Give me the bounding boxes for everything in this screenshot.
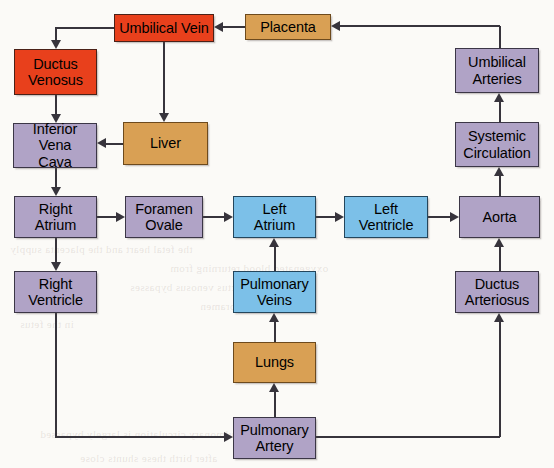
node-label-line: Ductus	[31, 56, 80, 72]
node-systemic-circulation[interactable]: SystemicCirculation	[455, 122, 539, 167]
node-label-line: Right	[37, 276, 74, 292]
edge-umbilical-arteries-to-placenta	[339, 25, 500, 27]
edge-left-ventricle-to-aorta	[428, 216, 451, 218]
arrowhead-into-pulmonary-veins	[269, 313, 279, 322]
node-label-line: Aorta	[480, 209, 518, 225]
arrowhead-into-left-atrium	[224, 212, 233, 222]
node-label-line: Ovale	[143, 217, 184, 233]
node-label-line: Inferior Vena	[14, 121, 96, 153]
node-pulmonary-veins[interactable]: PulmonaryVeins	[233, 271, 316, 313]
node-label-line: Atrium	[252, 217, 297, 233]
node-label-line: Venosus	[26, 72, 85, 88]
edge-pulmonary-veins-to-left-atrium	[274, 246, 276, 271]
node-umbilical-vein[interactable]: Umbilical Vein	[114, 14, 214, 42]
node-label-line: Left	[372, 201, 400, 217]
node-label-line: Ventricle	[357, 217, 416, 233]
edge-umbilical-vein-left	[55, 27, 114, 29]
arrowhead-into-left-atrium-bottom	[269, 238, 279, 247]
arrowhead-into-aorta-bottom	[494, 238, 504, 247]
node-left-ventricle[interactable]: LeftVentricle	[344, 196, 428, 238]
edge-placenta-to-umbilical-vein	[222, 26, 245, 28]
arrowhead-into-ductus-venosus	[51, 40, 61, 49]
arrowhead-into-placenta	[331, 21, 340, 31]
fetal-circulation-diagram: the fetal heart and the placenta supplyo…	[0, 0, 554, 468]
edge-pulmonary-artery-to-lungs	[274, 391, 276, 417]
arrowhead-into-umbilical-arteries	[494, 93, 504, 102]
node-lungs[interactable]: Lungs	[233, 342, 316, 383]
node-placenta[interactable]: Placenta	[245, 14, 331, 40]
edge-ductus-venosus-to-ivc	[55, 95, 57, 115]
edge-ivc-to-right-atrium	[55, 168, 57, 188]
node-label-line: Pulmonary	[238, 422, 310, 438]
node-label-line: Veins	[255, 292, 294, 308]
arrowhead-into-systemic-circulation	[494, 167, 504, 176]
arrowhead-into-ductus-arteriosus	[494, 313, 504, 322]
edge-umbilical-vein-to-liver	[163, 42, 165, 114]
edge-lungs-to-pulmonary-veins	[274, 321, 276, 342]
edge-aorta-to-systemic	[499, 175, 501, 196]
edge-right-atrium-to-foramen-ovale	[97, 216, 117, 218]
arrowhead-into-pulmonary-artery	[224, 432, 233, 442]
node-label-line: Arteriosus	[463, 292, 531, 308]
node-label-line: Left	[261, 201, 289, 217]
node-label-line: Arteries	[470, 71, 523, 87]
arrowhead-into-right-ventricle	[51, 262, 61, 271]
arrowhead-into-left-ventricle	[335, 212, 344, 222]
edge-right-atrium-to-right-ventricle	[55, 238, 57, 263]
edge-foramen-ovale-to-left-atrium	[203, 216, 225, 218]
node-ductus-arteriosus[interactable]: DuctusArteriosus	[455, 271, 539, 313]
node-ductus-venosus[interactable]: DuctusVenosus	[14, 49, 97, 95]
node-inferior-vena-cava[interactable]: Inferior VenaCava	[13, 123, 97, 168]
node-foramen-ovale[interactable]: ForamenOvale	[125, 196, 203, 238]
edge-pulmonary-artery-right	[316, 436, 500, 438]
node-liver[interactable]: Liver	[123, 122, 208, 165]
node-label-line: Ductus	[473, 276, 522, 292]
node-label-line: Foramen	[133, 201, 194, 217]
bleedthrough-text: after birth these shunts close	[80, 452, 217, 464]
edge-right-ventricle-to-pulmonary-artery	[55, 436, 225, 438]
node-umbilical-arteries[interactable]: UmbilicalArteries	[455, 48, 539, 93]
node-label-line: Liver	[148, 135, 183, 151]
arrowhead-into-ivc-side	[97, 138, 106, 148]
arrowhead-into-liver	[159, 113, 169, 122]
edge-liver-to-ivc	[105, 143, 123, 145]
edge-left-atrium-to-left-ventricle	[316, 216, 336, 218]
node-label-line: Placenta	[258, 19, 318, 35]
node-label-line: Umbilical	[466, 54, 528, 70]
arrowhead-into-umbilical-vein	[214, 22, 223, 32]
arrowhead-into-right-atrium	[51, 187, 61, 196]
node-pulmonary-artery[interactable]: PulmonaryArtery	[233, 417, 316, 459]
node-label-line: Circulation	[461, 145, 532, 161]
edge-systemic-to-umbilical-arteries	[499, 101, 501, 122]
arrowhead-into-foramen-ovale	[116, 212, 125, 222]
bleedthrough-text: in the fetus	[20, 318, 74, 330]
node-label-line: Pulmonary	[238, 276, 310, 292]
bleedthrough-text: the fetal heart and the placenta supply	[10, 243, 192, 255]
arrowhead-into-lungs	[269, 383, 279, 392]
node-right-atrium[interactable]: RightAtrium	[14, 196, 97, 238]
edge-ductus-arteriosus-to-aorta	[499, 246, 501, 271]
arrowhead-into-aorta	[450, 212, 459, 222]
node-label-line: Right	[37, 201, 74, 217]
node-label-line: Cava	[36, 154, 73, 170]
node-label-line: Lungs	[253, 354, 296, 370]
node-label-line: Artery	[253, 438, 295, 454]
node-left-atrium[interactable]: LeftAtrium	[233, 196, 316, 238]
node-label-line: Systemic	[466, 128, 528, 144]
node-aorta[interactable]: Aorta	[459, 196, 540, 238]
node-label-line: Ventricle	[26, 292, 85, 308]
edge-pulmonary-artery-to-ductus-arteriosus	[499, 321, 501, 437]
edge-umbilical-arteries-up	[499, 26, 501, 48]
edge-right-ventricle-down	[55, 313, 57, 437]
node-label-line: Umbilical Vein	[117, 20, 211, 36]
node-label-line: Atrium	[33, 217, 78, 233]
node-right-ventricle[interactable]: RightVentricle	[14, 271, 97, 313]
